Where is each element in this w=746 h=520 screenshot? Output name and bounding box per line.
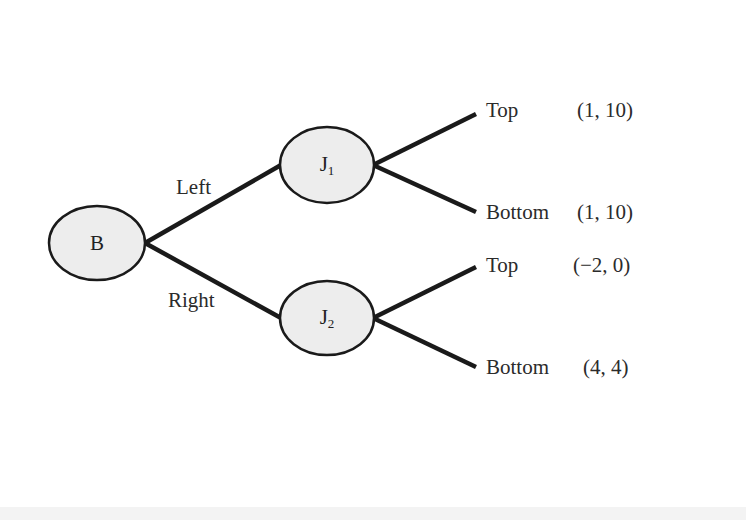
edge-j2-bottom	[373, 318, 476, 367]
leaf-payoff-j2-bottom: (4, 4)	[583, 357, 629, 378]
branch-label-left: Left	[176, 177, 211, 198]
node-j1-label: J1	[307, 154, 347, 177]
leaf-action-j1-bottom: Bottom	[486, 202, 549, 223]
leaf-payoff-j2-top: (−2, 0)	[573, 255, 630, 276]
edge-left	[145, 165, 281, 243]
node-j1-subscript: 1	[328, 163, 335, 178]
edge-j2-top	[373, 267, 476, 318]
node-b-label: B	[77, 233, 117, 254]
node-j2-text: J	[320, 305, 328, 329]
branch-label-right: Right	[168, 290, 215, 311]
game-tree-diagram	[0, 0, 746, 520]
leaf-action-j1-top: Top	[486, 100, 518, 121]
node-j2-label: J2	[307, 307, 347, 330]
leaf-action-j2-bottom: Bottom	[486, 357, 549, 378]
bottom-band	[0, 507, 746, 520]
leaf-action-j2-top: Top	[486, 255, 518, 276]
node-b-text: B	[90, 231, 104, 255]
leaf-payoff-j1-bottom: (1, 10)	[577, 202, 633, 223]
node-j2-subscript: 2	[328, 316, 335, 331]
leaf-payoff-j1-top: (1, 10)	[577, 100, 633, 121]
edge-j1-top	[373, 114, 476, 165]
node-j1-text: J	[320, 152, 328, 176]
edge-j1-bottom	[373, 165, 476, 212]
